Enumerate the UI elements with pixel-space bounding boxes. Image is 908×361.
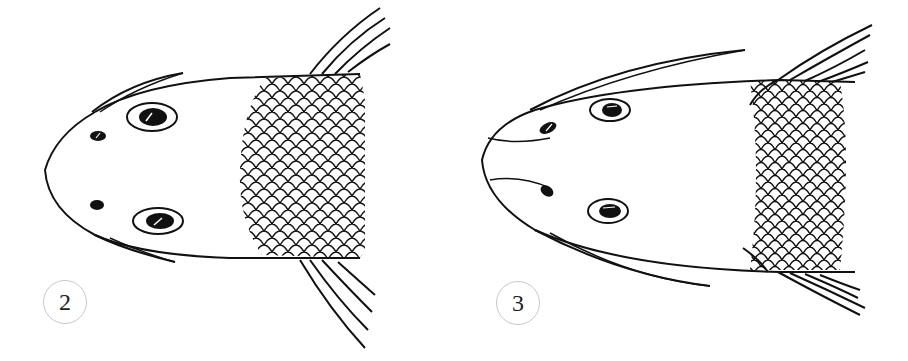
figure-label-3: 3 xyxy=(496,281,540,325)
figure-2-fish-head-rounded: 2 xyxy=(0,0,460,361)
figure-3-fish-head-pointed: 3 xyxy=(460,0,908,361)
figure-label-2: 2 xyxy=(43,280,87,324)
